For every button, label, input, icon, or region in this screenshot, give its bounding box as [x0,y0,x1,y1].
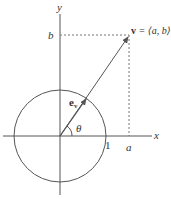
ev-subscript: v [74,102,78,110]
y-axis-label: y [56,1,62,13]
theta-arc [67,126,72,136]
one-label: 1 [105,139,111,151]
b-label: b [48,29,54,41]
theta-label: θ [76,122,82,134]
vector-diagram: y x b a 1 θ ev v = ⟨a, b⟩ [0,0,171,199]
v-components: = ⟨a, b⟩ [136,25,171,36]
ev-label: ev [69,96,78,110]
x-axis-label: x [153,129,159,141]
a-label: a [126,141,132,153]
vector-v-label: v = ⟨a, b⟩ [131,25,171,36]
